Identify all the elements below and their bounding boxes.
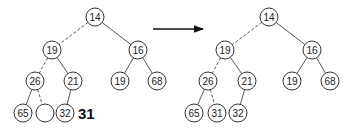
after-edge (198, 89, 205, 105)
before-node-68: 68 (148, 72, 166, 90)
node-label: 31 (211, 108, 223, 119)
before-node-19: 19 (111, 72, 129, 90)
after-node-31: 31 (208, 104, 226, 122)
before-node-26: 26 (26, 72, 44, 90)
node-circle (36, 104, 54, 122)
node-label: 14 (263, 12, 275, 23)
before-edge-dashed (39, 58, 47, 73)
before-edge-dashed (38, 90, 43, 105)
heap-insertion-diagram: 141916262119686532 31 141916262119686531… (0, 0, 355, 130)
before-edge (57, 57, 68, 73)
before-edge (143, 58, 153, 74)
after-node-32: 32 (229, 104, 247, 122)
node-label: 19 (114, 76, 126, 87)
node-label: 14 (89, 12, 101, 23)
after-edge-dashed (212, 58, 220, 73)
before-edge (125, 58, 134, 73)
node-label: 65 (17, 108, 29, 119)
before-node-19: 19 (43, 41, 61, 59)
before-edge (67, 90, 71, 105)
node-label: 65 (188, 108, 200, 119)
after-node-21: 21 (238, 72, 256, 90)
before-node-32: 32 (56, 104, 74, 122)
node-label: 21 (67, 76, 79, 87)
node-label: 32 (59, 108, 71, 119)
node-label: 26 (202, 76, 214, 87)
after-node-68: 68 (321, 72, 339, 90)
before-node-65: 65 (14, 104, 32, 122)
after-node-19: 19 (216, 41, 234, 59)
node-label: 32 (232, 108, 244, 119)
after-edge (297, 58, 307, 74)
node-label: 21 (241, 76, 253, 87)
after-edge-dashed (232, 22, 262, 44)
after-node-19: 19 (283, 72, 301, 90)
before-node-21: 21 (64, 72, 82, 90)
after-node-65: 65 (185, 104, 203, 122)
after-edge (240, 90, 244, 105)
node-label: 19 (286, 76, 298, 87)
heap-after-insert: 14191626211968653132 (185, 8, 339, 122)
before-edge-dashed (59, 22, 88, 44)
node-label: 68 (324, 76, 336, 87)
node-label: 19 (46, 45, 58, 56)
after-edge-dashed (210, 90, 214, 105)
after-edge (230, 57, 242, 73)
before-edge (26, 89, 32, 104)
node-label: 68 (151, 76, 163, 87)
before-node-empty (36, 104, 54, 122)
insert-value-label: 31 (78, 105, 95, 122)
after-edge (276, 22, 305, 44)
node-label: 16 (132, 45, 144, 56)
before-node-14: 14 (86, 8, 104, 26)
after-node-16: 16 (303, 41, 321, 59)
after-node-26: 26 (199, 72, 217, 90)
node-label: 26 (29, 76, 41, 87)
node-label: 16 (306, 45, 318, 56)
after-edge (317, 58, 326, 73)
after-node-14: 14 (260, 8, 278, 26)
before-edge (102, 22, 131, 44)
node-label: 19 (219, 45, 231, 56)
before-node-16: 16 (129, 41, 147, 59)
